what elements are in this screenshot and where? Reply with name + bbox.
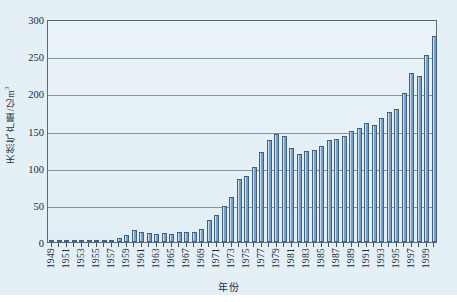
y-axis-tick-label: 0	[39, 238, 44, 249]
plot-area	[47, 20, 437, 243]
x-axis-tick-label: 1971	[211, 248, 221, 268]
x-axis-tick-label: 1983	[301, 248, 311, 268]
y-axis-title-text: 天然气产量/亿m3	[3, 86, 18, 164]
y-axis-title-superscript: 3	[3, 86, 10, 90]
x-axis-title: 年份	[0, 279, 457, 294]
x-axis-tick	[343, 243, 344, 247]
x-axis-tick	[351, 243, 352, 247]
y-axis-tick-label: 100	[28, 163, 44, 174]
x-axis-tick	[246, 243, 247, 247]
bar	[342, 136, 347, 242]
x-axis-tick	[178, 243, 179, 247]
x-axis-tick	[373, 243, 374, 247]
bar	[379, 118, 384, 242]
bar	[237, 179, 242, 242]
x-axis-tick	[133, 243, 134, 247]
y-axis-tick-label: 300	[28, 15, 44, 26]
x-axis-tick	[328, 243, 329, 247]
x-axis-tick	[238, 243, 239, 247]
bar	[289, 148, 294, 242]
x-axis-tick	[193, 243, 194, 247]
bar	[199, 229, 204, 242]
x-axis-tick	[283, 243, 284, 247]
x-axis-tick	[148, 243, 149, 247]
bar	[274, 134, 279, 242]
bar	[94, 240, 99, 242]
bar	[214, 215, 219, 242]
x-axis-tick	[321, 243, 322, 247]
x-axis-tick	[223, 243, 224, 247]
x-axis-tick-label: 1973	[226, 248, 236, 268]
x-axis-tick	[163, 243, 164, 247]
y-axis-tick-label: 250	[28, 52, 44, 63]
bar	[154, 234, 159, 242]
y-axis-title-label: 天然气产量/亿m	[7, 90, 17, 164]
x-axis-tick-label: 1963	[151, 248, 161, 268]
bar	[162, 233, 167, 242]
x-axis-tick	[381, 243, 382, 247]
x-axis-tick	[253, 243, 254, 247]
y-axis-tick-label: 200	[28, 89, 44, 100]
x-axis-tick	[268, 243, 269, 247]
x-axis-tick-label: 1975	[241, 248, 251, 268]
bar	[109, 240, 114, 242]
x-axis-tick	[426, 243, 427, 247]
bar	[372, 125, 377, 242]
bar-series	[48, 21, 436, 242]
bar	[327, 140, 332, 242]
x-axis-tick-label: 1951	[61, 248, 71, 268]
x-axis-tick	[276, 243, 277, 247]
bar	[184, 232, 189, 242]
x-axis-tick-label: 1949	[46, 248, 56, 268]
bar	[417, 76, 422, 242]
x-axis-tick	[88, 243, 89, 247]
bar	[319, 146, 324, 242]
bar	[387, 112, 392, 242]
x-axis-tick-label: 1999	[421, 248, 431, 268]
x-axis-tick-label: 1997	[406, 248, 416, 268]
x-axis-tick	[96, 243, 97, 247]
x-axis-tick	[298, 243, 299, 247]
x-axis-tick-label: 1957	[106, 248, 116, 268]
x-axis-tick-label: 1965	[166, 248, 176, 268]
bar	[87, 240, 92, 242]
bar	[222, 206, 227, 242]
bar	[177, 232, 182, 242]
x-axis-tick	[366, 243, 367, 247]
x-axis-tick	[81, 243, 82, 247]
x-axis-tick	[306, 243, 307, 247]
x-axis-tick	[418, 243, 419, 247]
bar	[259, 152, 264, 242]
bar	[64, 240, 69, 242]
x-axis-tick-label: 1979	[271, 248, 281, 268]
bar	[229, 197, 234, 242]
x-axis-tick	[261, 243, 262, 247]
x-axis-tick-label: 1981	[286, 248, 296, 268]
bar	[72, 240, 77, 242]
x-axis-tick	[201, 243, 202, 247]
x-axis-tick	[216, 243, 217, 247]
x-axis-tick	[118, 243, 119, 247]
x-axis-tick	[388, 243, 389, 247]
x-axis-tick-label: 1993	[376, 248, 386, 268]
x-axis-tick	[231, 243, 232, 247]
bar	[57, 240, 62, 242]
x-axis-tick	[313, 243, 314, 247]
bar	[132, 230, 137, 242]
x-axis-tick	[171, 243, 172, 247]
bar	[192, 232, 197, 242]
bar	[364, 123, 369, 242]
chart-figure: 天然气产量/亿m3 050100150200250300 19491951195…	[0, 0, 457, 302]
bar	[357, 128, 362, 242]
bar	[334, 139, 339, 242]
x-axis-tick-label: 1961	[136, 248, 146, 268]
bar	[207, 220, 212, 242]
bar	[124, 235, 129, 242]
bar	[102, 240, 107, 242]
bar	[117, 238, 122, 242]
x-axis-tick	[411, 243, 412, 247]
bar	[409, 73, 414, 242]
x-axis-tick-label: 1967	[181, 248, 191, 268]
bar	[349, 131, 354, 243]
bar	[49, 240, 54, 242]
